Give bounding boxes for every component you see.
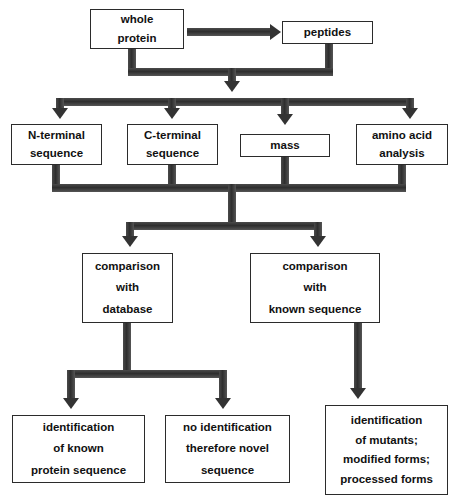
flowchart-diagram: whole protein peptides N-terminal sequen…	[0, 0, 460, 502]
connector-distribution-bar	[56, 98, 414, 106]
node-n-terminal-line-2: sequence	[30, 148, 83, 160]
arrow-to-n-terminal-head	[52, 108, 68, 119]
node-whole-protein-line-2: protein	[118, 33, 157, 45]
node-amino-acid-line-1: amino acid	[372, 130, 432, 142]
arrow-to-mass-head	[277, 114, 293, 125]
node-no-identification-line-1: no identification	[183, 422, 272, 434]
node-no-identification-therefore-novel-sequence: no identification therefore novel sequen…	[165, 415, 290, 483]
arrow-protein-to-peptides-shaft	[187, 28, 271, 36]
arrow-to-amino-acid-head	[402, 108, 418, 119]
arrow-to-identification-known-head	[63, 398, 79, 409]
node-comparison-with-database: comparison with database	[82, 253, 173, 323]
node-identification-mutants-line-4: processed forms	[340, 474, 433, 486]
node-c-terminal-sequence: C-terminal sequence	[127, 124, 218, 165]
connector-bottom-split-bar	[67, 370, 227, 378]
node-identification-known-line-3: protein sequence	[31, 465, 126, 477]
node-amino-acid-line-2: analysis	[379, 148, 424, 160]
arrow-to-no-identification-head	[215, 398, 231, 409]
node-identification-of-known-protein-sequence: identification of known protein sequence	[12, 415, 145, 483]
arrow-protein-to-peptides-head	[270, 24, 281, 40]
node-peptides-line-1: peptides	[304, 27, 351, 39]
arrow-to-identification-mutants-head	[350, 388, 366, 399]
node-identification-of-mutants: identification of mutants; modified form…	[325, 405, 448, 495]
connector-bottom-right-stem	[219, 370, 227, 400]
node-no-identification-line-3: sequence	[201, 465, 254, 477]
arrow-to-comparison-database-head	[122, 236, 138, 247]
connector-comparison-split-bar	[126, 222, 322, 230]
arrow-to-c-terminal-head	[164, 108, 180, 119]
node-comparison-with-known-sequence: comparison with known sequence	[250, 253, 380, 323]
node-whole-protein: whole protein	[90, 9, 184, 49]
node-n-terminal-sequence: N-terminal sequence	[11, 124, 102, 165]
node-comparison-database-line-1: comparison	[95, 261, 160, 273]
node-peptides: peptides	[282, 21, 373, 44]
connector-comparison-known-stem	[354, 322, 362, 390]
node-comparison-known-line-3: known sequence	[269, 304, 362, 316]
arrow-merge-to-distribution-head	[224, 81, 240, 92]
node-c-terminal-line-2: sequence	[146, 148, 199, 160]
node-c-terminal-line-1: C-terminal	[144, 130, 201, 142]
node-identification-known-line-1: identification	[43, 422, 115, 434]
arrow-to-comparison-known-head	[310, 236, 326, 247]
node-identification-mutants-line-1: identification	[351, 415, 423, 427]
node-mass-line-1: mass	[270, 140, 299, 152]
connector-bottom-left-stem	[67, 370, 75, 400]
node-n-terminal-line-1: N-terminal	[28, 130, 85, 142]
node-comparison-known-line-1: comparison	[282, 261, 347, 273]
node-identification-mutants-line-2: of mutants;	[355, 435, 418, 447]
node-whole-protein-line-1: whole	[121, 14, 154, 26]
node-comparison-database-line-2: with	[116, 282, 139, 294]
node-mass: mass	[240, 134, 330, 157]
node-comparison-known-line-2: with	[304, 282, 327, 294]
node-identification-known-line-2: of known	[53, 443, 103, 455]
node-comparison-database-line-3: database	[103, 304, 153, 316]
node-amino-acid-analysis: amino acid analysis	[356, 124, 448, 165]
node-identification-mutants-line-3: modified forms;	[343, 454, 430, 466]
node-no-identification-line-2: therefore novel	[186, 443, 269, 455]
